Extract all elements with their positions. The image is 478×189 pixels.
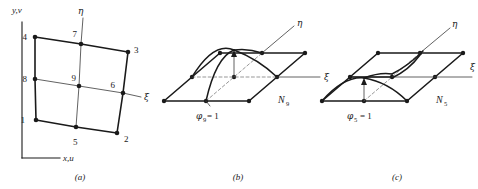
shape-function-label-b: N 9 xyxy=(277,94,289,107)
node-2 xyxy=(115,131,120,136)
eta-axis-extension-c xyxy=(420,28,450,53)
hump-curve-right-c xyxy=(364,78,407,101)
shape-function-label-c: N 5 xyxy=(435,94,447,107)
eta-label-a: η xyxy=(78,6,84,16)
node-label-8: 8 xyxy=(23,74,28,84)
eta-axis-extension-b xyxy=(262,26,294,53)
panel-c: ξ η φ 5 = 1 N 5 xyxy=(320,19,476,182)
node-8 xyxy=(33,77,38,82)
xi-label-c: ξ xyxy=(470,62,476,72)
node-b-3 xyxy=(303,51,307,55)
phi-subscript-c: 5 xyxy=(354,116,357,123)
xi-label-b: ξ xyxy=(324,72,330,82)
panel-a: y,v x,u ξ η 1 2 xyxy=(11,5,150,182)
phi-label-c: φ 5 = 1 xyxy=(347,111,372,123)
figure-container: y,v x,u ξ η 1 2 xyxy=(0,0,478,189)
node-b-4 xyxy=(218,51,222,55)
phi-symbol-c: φ xyxy=(347,111,354,121)
node-label-6: 6 xyxy=(111,80,116,90)
xi-label-a: ξ xyxy=(144,92,150,102)
node-label-3: 3 xyxy=(134,45,139,55)
figure-svg: y,v x,u ξ η 1 2 xyxy=(0,0,478,189)
node-7 xyxy=(79,42,84,47)
hump-tail-upper-c xyxy=(392,51,423,74)
y-axis-label: y,v xyxy=(11,5,22,15)
panel-b: ξ η φ 9 = 1 N 9 xyxy=(162,18,330,182)
node-b-2 xyxy=(247,99,251,103)
bubble-curve-front-b xyxy=(206,50,234,101)
shape-function-subscript-b: 9 xyxy=(286,100,289,107)
phi-equation-c: = 1 xyxy=(360,111,372,121)
node-label-4: 4 xyxy=(23,32,28,42)
phi-symbol-b: φ xyxy=(196,111,203,121)
shape-function-symbol-c: N xyxy=(435,94,444,105)
xi-axis-extension xyxy=(123,93,141,97)
caption-a: (a) xyxy=(75,172,86,182)
node-3 xyxy=(126,50,131,55)
eta-axis-extension xyxy=(81,18,83,44)
phi-subscript-b: 9 xyxy=(203,116,206,123)
x-axis-label: x,u xyxy=(62,153,74,163)
caption-c: (c) xyxy=(392,172,402,182)
node-4 xyxy=(33,35,38,40)
eta-label-b: η xyxy=(297,18,303,28)
node-b-1 xyxy=(162,99,166,103)
shape-function-subscript-c: 5 xyxy=(444,100,447,107)
bubble-curve-right-b xyxy=(234,50,277,77)
node-label-9: 9 xyxy=(72,73,77,83)
node-1 xyxy=(34,118,39,123)
node-label-7: 7 xyxy=(73,29,78,39)
node-6 xyxy=(121,91,126,96)
node-9 xyxy=(77,84,82,89)
shape-function-symbol-b: N xyxy=(277,94,286,105)
node-5 xyxy=(74,125,79,130)
node-c-4 xyxy=(376,51,380,55)
phi-equation-b: = 1 xyxy=(207,111,219,121)
node-c-3 xyxy=(461,51,465,55)
eta-label-c: η xyxy=(452,19,458,29)
node-label-5: 5 xyxy=(73,137,78,147)
phi-label-b: φ 9 = 1 xyxy=(196,111,219,123)
node-label-2: 2 xyxy=(124,134,129,144)
node-label-1: 1 xyxy=(21,115,26,125)
caption-b: (b) xyxy=(233,172,244,182)
